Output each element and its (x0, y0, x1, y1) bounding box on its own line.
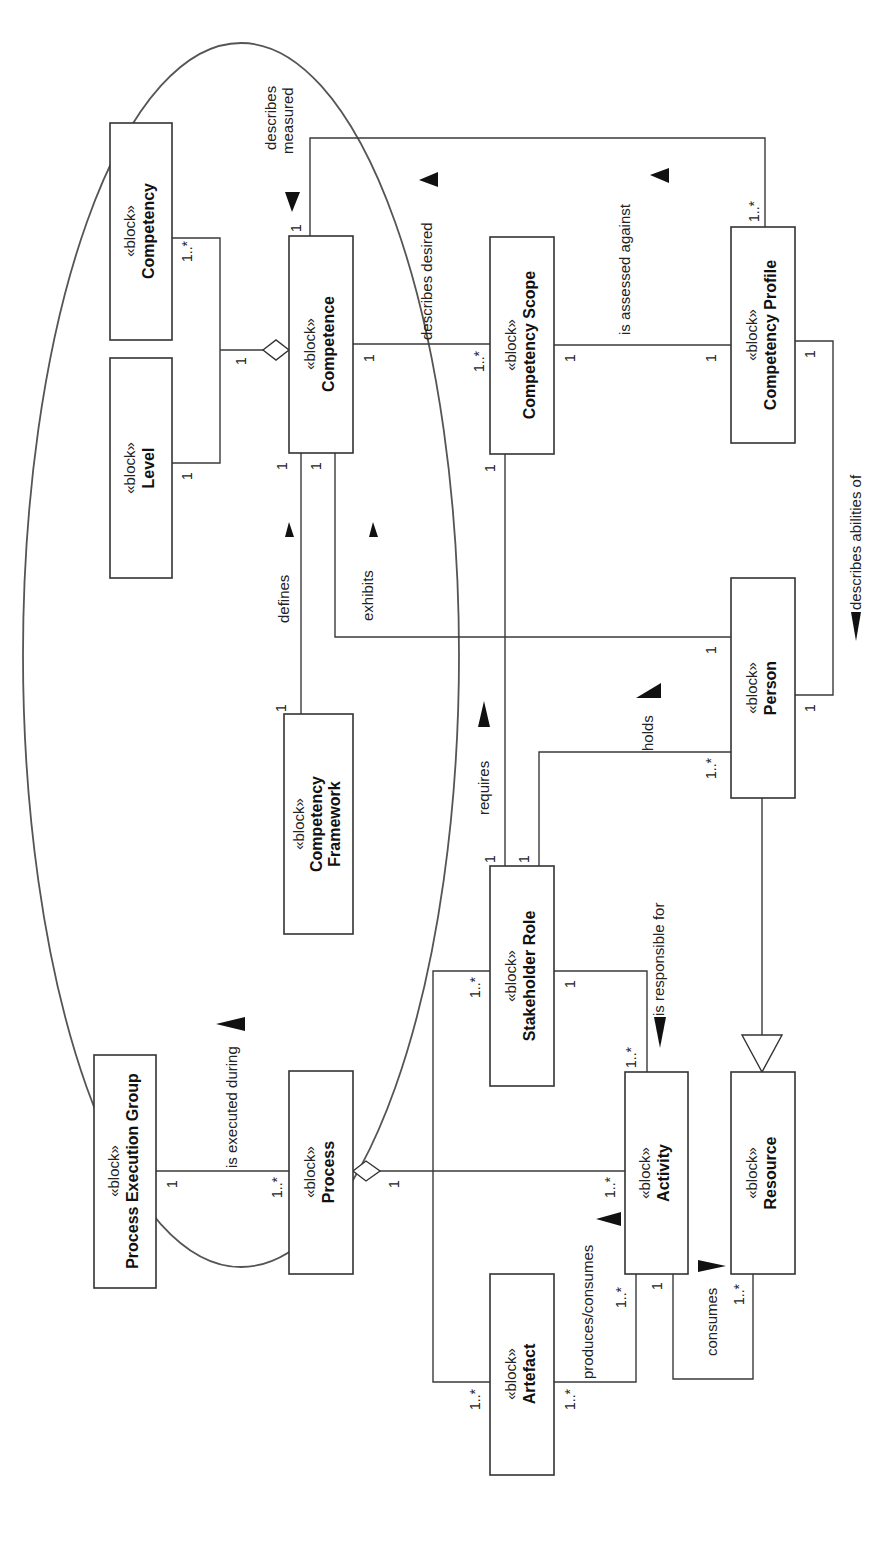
svg-text:1..*: 1..* (471, 350, 487, 372)
block-stereotype: «block» (502, 950, 519, 1002)
label-holds: holds (639, 715, 656, 751)
svg-text:1..*: 1..* (179, 240, 195, 262)
svg-text:1: 1 (703, 646, 719, 654)
svg-text:1..*: 1..* (731, 1283, 747, 1305)
block-person[interactable]: «block» Person (731, 578, 795, 798)
svg-text:1: 1 (482, 464, 498, 472)
block-name: Competence (320, 296, 337, 392)
arrow-defines-icon (285, 522, 294, 537)
generalization-triangle (742, 1035, 782, 1072)
label-consumes: consumes (703, 1288, 720, 1356)
label-describes-abilities-of: describes abilities of (847, 474, 864, 610)
block-competence[interactable]: «block» Competence (289, 236, 353, 453)
block-stereotype: «block» (502, 319, 519, 371)
block-name: Level (140, 448, 157, 489)
svg-text:1..*: 1..* (613, 1286, 629, 1308)
block-name: Competency Scope (521, 271, 538, 420)
block-competency-framework[interactable]: «block» Competency Framework (284, 714, 353, 934)
aggregation-diamond-process (353, 1161, 380, 1181)
svg-text:measured: measured (279, 87, 296, 154)
block-name: Stakeholder Role (521, 911, 538, 1042)
svg-text:1: 1 (361, 354, 377, 362)
svg-text:1: 1 (703, 354, 719, 362)
label-defines: defines (275, 575, 292, 623)
block-process-execution-group[interactable]: «block» Process Execution Group (94, 1055, 156, 1288)
svg-text:describes: describes (262, 86, 279, 150)
arrow-is-assessed-against-icon (650, 168, 669, 183)
block-stereotype: «block» (105, 1145, 122, 1197)
svg-text:1: 1 (274, 462, 290, 470)
block-stereotype: «block» (121, 442, 138, 494)
label-describes-desired: describes desired (418, 222, 435, 340)
arrow-produces-consumes-icon (596, 1212, 621, 1226)
svg-text:1: 1 (802, 704, 818, 712)
block-name: Process Execution Group (124, 1073, 141, 1269)
svg-text:1: 1 (649, 1282, 665, 1290)
arrow-requires-icon (478, 701, 490, 727)
diagram-canvas: «block» Competency «block» Level «block»… (0, 0, 894, 1549)
block-artefact[interactable]: «block» Artefact (490, 1274, 554, 1475)
block-activity[interactable]: «block» Activity (625, 1072, 688, 1274)
competency-group-ellipse (23, 43, 459, 1267)
block-stereotype: «block» (502, 1348, 519, 1400)
block-level[interactable]: «block» Level (110, 358, 172, 578)
svg-text:1..*: 1..* (269, 1176, 285, 1198)
block-stereotype: «block» (636, 1147, 653, 1199)
label-produces-consumes: produces/consumes (579, 1245, 596, 1379)
svg-text:1: 1 (164, 1180, 180, 1188)
block-name: Activity (655, 1144, 672, 1202)
svg-text:1: 1 (386, 1180, 402, 1188)
label-describes-measured: describes measured (262, 86, 296, 154)
svg-text:1: 1 (802, 350, 818, 358)
block-name: Competency Profile (762, 260, 779, 410)
block-name-line2: Framework (326, 781, 343, 866)
block-stereotype: «block» (290, 798, 307, 850)
arrow-describes-desired-icon (419, 172, 438, 187)
label-is-responsible-for: is responsible for (650, 903, 667, 1016)
svg-text:1: 1 (308, 462, 324, 470)
arrow-is-executed-during-icon (216, 1017, 245, 1031)
arrow-is-responsible-for-icon (654, 1017, 666, 1048)
block-stereotype: «block» (121, 205, 138, 257)
svg-text:1: 1 (273, 704, 289, 712)
label-requires: requires (475, 761, 492, 815)
label-is-executed-during: is executed during (223, 1046, 240, 1168)
arrow-describes-abilities-icon (851, 612, 861, 641)
svg-text:1: 1 (179, 472, 195, 480)
arrow-consumes-icon (698, 1260, 726, 1272)
block-competency-scope[interactable]: «block» Competency Scope (490, 237, 554, 454)
svg-text:1..*: 1..* (623, 1046, 639, 1068)
block-resource[interactable]: «block» Resource (731, 1072, 795, 1274)
block-stereotype: «block» (301, 318, 318, 370)
svg-text:1: 1 (233, 357, 249, 365)
arrow-exhibits-icon (369, 522, 378, 537)
block-process[interactable]: «block» Process (289, 1071, 353, 1274)
block-name: Artefact (521, 1343, 538, 1404)
block-name-line1: Competency (308, 776, 325, 872)
svg-text:1: 1 (482, 855, 498, 863)
svg-text:1..*: 1..* (467, 976, 483, 998)
svg-text:1: 1 (562, 980, 578, 988)
block-stereotype: «block» (301, 1146, 318, 1198)
svg-text:1: 1 (516, 855, 532, 863)
svg-text:1..*: 1..* (467, 1388, 483, 1410)
block-name: Resource (762, 1136, 779, 1209)
svg-text:1..*: 1..* (562, 1388, 578, 1410)
block-competency[interactable]: «block» Competency (110, 123, 172, 340)
block-stakeholder-role[interactable]: «block» Stakeholder Role (490, 866, 554, 1086)
block-name: Process (320, 1141, 337, 1203)
label-is-assessed-against: is assessed against (616, 203, 633, 335)
block-stereotype: «block» (743, 309, 760, 361)
block-name: Competency (140, 183, 157, 279)
svg-text:1: 1 (288, 224, 304, 232)
svg-text:1..*: 1..* (746, 200, 762, 222)
block-stereotype: «block» (743, 662, 760, 714)
arrow-describes-measured-icon (285, 192, 300, 212)
block-competency-profile[interactable]: «block» Competency Profile (731, 227, 795, 443)
label-exhibits: exhibits (359, 570, 376, 621)
svg-text:1..*: 1..* (602, 1176, 618, 1198)
arrow-holds-icon (636, 683, 661, 698)
block-stereotype: «block» (743, 1147, 760, 1199)
svg-text:1..*: 1..* (703, 757, 719, 779)
svg-text:1: 1 (562, 354, 578, 362)
